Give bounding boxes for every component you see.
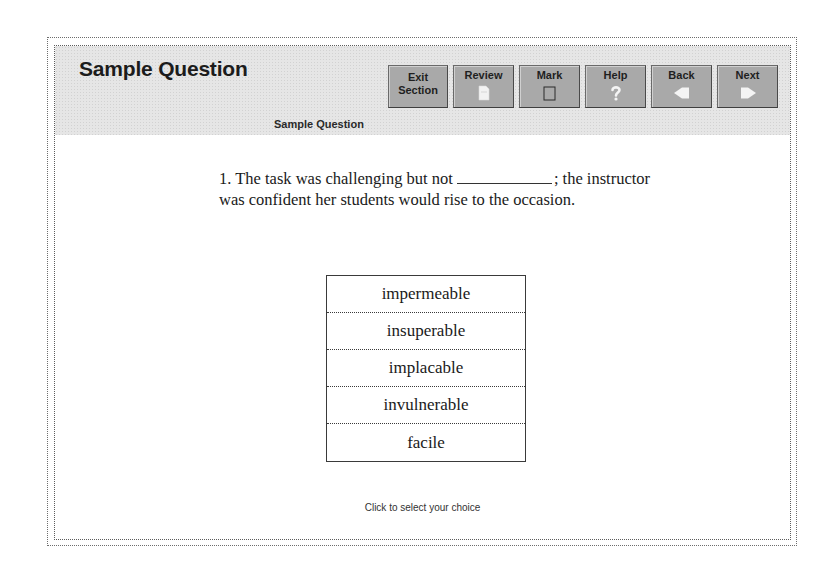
arrow-right-icon [739, 84, 757, 102]
next-button[interactable]: Next [717, 65, 778, 108]
mark-button[interactable]: Mark [519, 65, 580, 108]
toolbar: Exit Section Review Mark [388, 65, 778, 108]
choice-facile[interactable]: facile [327, 424, 525, 461]
back-label: Back [668, 69, 694, 82]
mark-label: Mark [537, 69, 563, 82]
header-bar: Sample Question Sample Question Exit Sec… [55, 46, 790, 135]
review-button[interactable]: Review [453, 65, 514, 108]
next-label: Next [736, 69, 760, 82]
help-button[interactable]: Help [585, 65, 646, 108]
exit-section-button[interactable]: Exit Section [388, 65, 448, 108]
review-label: Review [465, 69, 503, 82]
question-text: 1. The task was challenging but not; the… [219, 168, 659, 210]
test-window: Sample Question Sample Question Exit Sec… [54, 45, 791, 540]
arrow-left-icon [673, 84, 691, 102]
exit-section-label-line1: Exit [408, 71, 428, 84]
help-label: Help [604, 69, 628, 82]
choice-implacable[interactable]: implacable [327, 350, 525, 387]
section-subtitle: Sample Question [274, 118, 364, 130]
choice-insuperable[interactable]: insuperable [327, 313, 525, 350]
question-stem-start: The task was challenging but not [235, 169, 453, 188]
page-title: Sample Question [79, 57, 248, 81]
question-area: 1. The task was challenging but not; the… [55, 135, 790, 539]
choice-impermeable[interactable]: impermeable [327, 276, 525, 313]
exit-section-label-line2: Section [398, 84, 438, 97]
instruction-hint: Click to select your choice [55, 502, 790, 513]
answer-blank [457, 169, 552, 184]
back-button[interactable]: Back [651, 65, 712, 108]
document-icon [478, 84, 490, 102]
choice-invulnerable[interactable]: invulnerable [327, 387, 525, 424]
checkbox-icon [543, 84, 556, 102]
question-mark-icon [610, 84, 622, 102]
answer-choices: impermeable insuperable implacable invul… [326, 275, 526, 462]
question-number: 1. [219, 169, 231, 188]
